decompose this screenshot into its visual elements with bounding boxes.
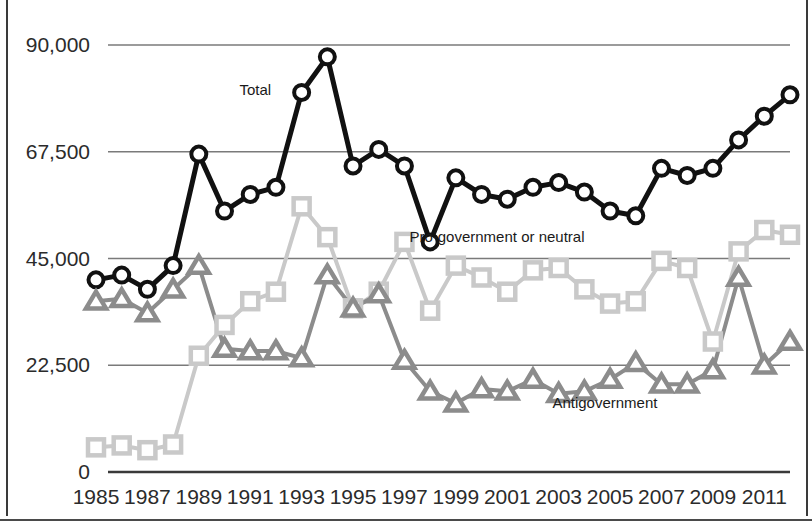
x-axis-tick-labels: 1985198719891991199319951997199920012003… [73, 485, 787, 508]
x-tick-label: 2001 [484, 485, 531, 508]
data-point-marker [654, 161, 669, 176]
data-point-marker [780, 332, 800, 349]
chart-canvas: 022,50045,00067,50090,000 19851987198919… [0, 0, 812, 528]
data-point-marker [703, 360, 723, 377]
data-point-marker [346, 158, 361, 173]
data-point-marker [653, 253, 669, 269]
data-point-marker [114, 268, 129, 283]
data-point-marker [474, 187, 489, 202]
data-point-marker [242, 293, 258, 309]
data-point-marker [783, 87, 798, 102]
data-point-marker [371, 142, 386, 157]
x-tick-label: 1995 [330, 485, 377, 508]
line-chart: 022,50045,00067,50090,000 19851987198919… [0, 0, 812, 528]
data-point-marker [448, 258, 464, 274]
data-point-marker [474, 269, 490, 285]
x-tick-label: 2003 [535, 485, 582, 508]
data-point-marker [497, 382, 517, 399]
x-tick-label: 2009 [690, 485, 737, 508]
data-point-marker [114, 437, 130, 453]
data-point-marker [523, 370, 543, 387]
data-point-marker [626, 353, 646, 370]
data-point-marker [551, 260, 567, 276]
y-tick-label: 90,000 [26, 33, 90, 56]
chart-page: 022,50045,00067,50090,000 19851987198919… [0, 0, 812, 528]
data-point-marker [317, 266, 337, 283]
data-point-marker [677, 375, 697, 392]
data-point-marker [577, 185, 592, 200]
data-point-marker [576, 281, 592, 297]
data-point-marker [139, 442, 155, 458]
data-point-marker [191, 147, 206, 162]
data-point-marker [446, 394, 466, 411]
x-tick-label: 1999 [432, 485, 479, 508]
data-point-marker [89, 272, 104, 287]
data-point-marker [294, 198, 310, 214]
data-point-marker [705, 334, 721, 350]
x-tick-label: 1987 [124, 485, 171, 508]
data-point-marker [320, 49, 335, 64]
data-point-marker [397, 158, 412, 173]
data-point-marker [525, 262, 541, 278]
data-point-marker [319, 229, 335, 245]
data-point-marker [551, 175, 566, 190]
y-tick-label: 67,500 [26, 140, 90, 163]
data-point-marker [422, 303, 438, 319]
data-point-marker [756, 222, 772, 238]
data-point-marker [680, 168, 695, 183]
x-tick-label: 2011 [742, 485, 787, 508]
x-tick-label: 1997 [381, 485, 428, 508]
y-axis-tick-labels: 022,50045,00067,50090,000 [26, 33, 90, 483]
data-point-marker [394, 351, 414, 368]
x-tick-label: 1991 [227, 485, 274, 508]
data-point-marker [86, 292, 106, 309]
y-tick-label: 0 [78, 460, 90, 483]
data-point-marker [140, 282, 155, 297]
data-point-marker [243, 187, 258, 202]
data-point-marker [499, 284, 515, 300]
x-tick-label: 1989 [175, 485, 222, 508]
data-point-marker [217, 317, 233, 333]
y-tick-label: 45,000 [26, 247, 90, 270]
data-point-marker [88, 439, 104, 455]
data-point-marker [782, 227, 798, 243]
data-point-marker [112, 289, 132, 306]
series-label-pro-government-or-neutral: Pro-government or neutral [409, 228, 584, 245]
data-point-marker [448, 170, 463, 185]
x-tick-label: 2005 [587, 485, 634, 508]
data-point-marker [292, 349, 312, 366]
data-point-marker [294, 85, 309, 100]
data-point-marker [628, 208, 643, 223]
data-point-marker [215, 339, 235, 356]
data-point-marker [266, 342, 286, 359]
data-point-marker [166, 258, 181, 273]
data-point-marker [268, 284, 284, 300]
data-point-marker [525, 180, 540, 195]
data-point-marker [603, 204, 618, 219]
x-tick-label: 2007 [638, 485, 685, 508]
x-tick-label: 1985 [73, 485, 120, 508]
data-point-marker [217, 204, 232, 219]
data-point-marker [240, 342, 260, 359]
data-point-marker [757, 109, 772, 124]
data-point-marker [705, 161, 720, 176]
data-point-marker [472, 379, 492, 396]
data-point-marker [165, 436, 181, 452]
data-point-marker [268, 180, 283, 195]
data-point-marker [600, 370, 620, 387]
series-label-antigovernment: Antigovernment [552, 394, 658, 411]
data-point-marker [191, 348, 207, 364]
data-point-marker [500, 192, 515, 207]
x-tick-label: 1993 [278, 485, 325, 508]
data-point-marker [602, 296, 618, 312]
data-point-marker [731, 243, 747, 259]
data-point-marker [679, 260, 695, 276]
series-label-total: Total [240, 81, 272, 98]
data-point-marker [628, 293, 644, 309]
y-tick-label: 22,500 [26, 353, 90, 376]
data-point-marker [731, 132, 746, 147]
